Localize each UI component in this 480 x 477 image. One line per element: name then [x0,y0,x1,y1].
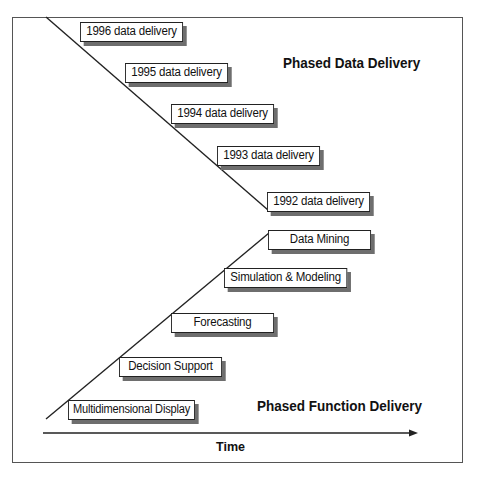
data-delivery-1992: 1992 data delivery [267,192,370,212]
data-delivery-1996: 1996 data delivery [80,22,183,42]
function-decision-support: Decision Support [119,357,222,377]
data-delivery-1994: 1994 data delivery [171,104,274,124]
function-simulation-modeling: Simulation & Modeling [224,268,347,288]
function-forecasting: Forecasting [171,313,274,333]
heading-phased-data-delivery: Phased Data Delivery [283,54,420,71]
function-multidimensional-display: Multidimensional Display [68,400,195,420]
time-axis-arrowhead [409,430,418,437]
time-axis-label: Time [216,440,245,454]
data-delivery-1993: 1993 data delivery [217,146,320,166]
heading-phased-function-delivery: Phased Function Delivery [257,397,422,414]
function-data-mining: Data Mining [268,230,371,250]
data-delivery-1995: 1995 data delivery [125,63,228,83]
